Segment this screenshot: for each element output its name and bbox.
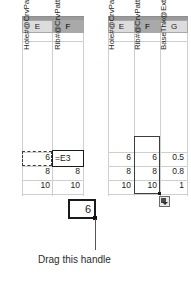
parameter-header-hole: Hole#@CrvPattern1 [108, 0, 116, 50]
cell-G-row3-right[interactable]: 1 [161, 180, 186, 193]
callout-caption: Drag this handle [38, 253, 111, 266]
autofill-options-icon[interactable] [159, 196, 170, 207]
cell-E-row3-right[interactable]: 10 [109, 180, 133, 193]
copy-source-marquee [22, 151, 52, 166]
cell-E-row1-right[interactable]: 6 [109, 152, 133, 165]
chevron-down-icon [162, 202, 168, 205]
parameter-header-rib: Rib#@CrvPattern2 [134, 0, 142, 50]
callout-leader-line [95, 219, 96, 250]
parameter-header-hole: Hole#@CrvPattern1 [23, 0, 31, 50]
callout-zoom-cell: 6 [68, 199, 96, 219]
cell-E-row2-right[interactable]: 8 [109, 166, 133, 179]
column-header-row-right[interactable]: E F G [108, 20, 188, 33]
parameter-header-basethk: BaseThk@Extrude1 [160, 0, 168, 50]
cell-E-row2-left[interactable]: 8 [23, 166, 52, 179]
gridline-h [108, 41, 188, 42]
design-table-before[interactable]: E F Hole#@CrvPattern1 Rib#@CrvPattern2 6… [22, 16, 84, 196]
cell-F-row3-right[interactable]: 10 [135, 180, 159, 193]
cell-F-row3-left[interactable]: 10 [53, 180, 82, 193]
cell-E-row3-left[interactable]: 10 [23, 180, 52, 193]
gridline-v [187, 33, 188, 196]
gridline-v [83, 33, 84, 196]
cell-G-row1-right[interactable]: 0.5 [161, 152, 186, 165]
cell-F-row2-left[interactable]: 8 [53, 166, 82, 179]
cell-F-row1-right[interactable]: 6 [135, 152, 159, 165]
cell-F-row1-left-formula[interactable]: =E3 [54, 153, 83, 166]
cell-G-row2-right[interactable]: 0.8 [161, 166, 186, 179]
parameter-header-rib: Rib#@CrvPattern2 [54, 0, 62, 50]
gridline-h [108, 194, 188, 195]
design-table-after[interactable]: E F G Hole#@CrvPattern1 Rib#@CrvPattern2… [108, 16, 188, 206]
gridline-h [22, 194, 84, 195]
cell-F-row2-right[interactable]: 8 [135, 166, 159, 179]
fill-handle[interactable] [158, 192, 161, 195]
